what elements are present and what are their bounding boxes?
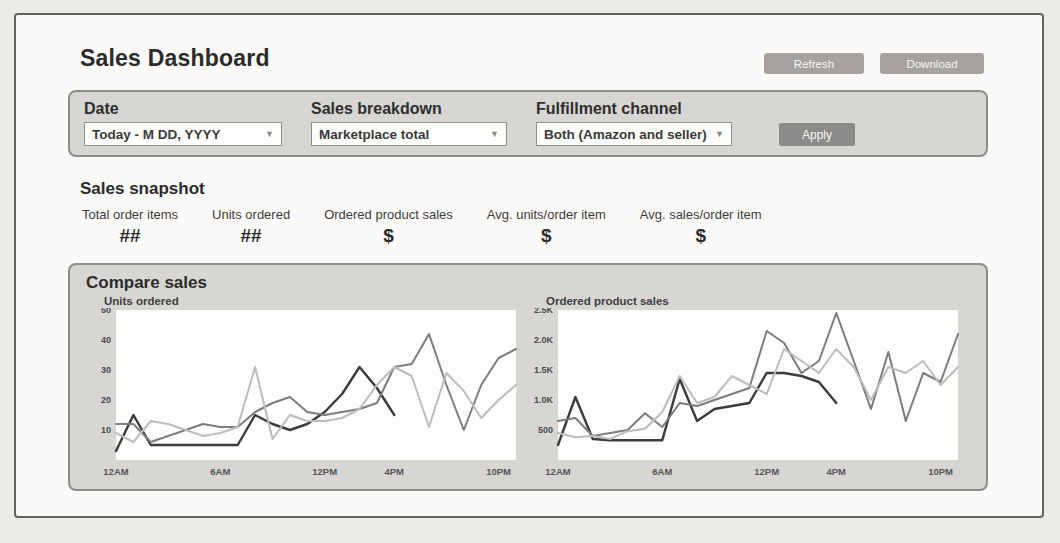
metric-avg-sales-per-order-item: Avg. sales/order item $ xyxy=(640,207,762,247)
metric-value: $ xyxy=(487,225,606,247)
dashboard-card: Sales Dashboard Refresh Download Date To… xyxy=(14,13,1044,518)
sales-snapshot-title: Sales snapshot xyxy=(80,179,1042,199)
fulfillment-channel-filter-group: Fulfillment channel Both (Amazon and sel… xyxy=(536,100,732,146)
date-filter-group: Date Today - M DD, YYYY ▼ xyxy=(84,100,282,146)
svg-text:2.5K: 2.5K xyxy=(534,308,554,315)
download-button[interactable]: Download xyxy=(880,53,984,74)
metric-avg-units-per-order-item: Avg. units/order item $ xyxy=(487,207,606,247)
metric-value: ## xyxy=(82,225,178,247)
svg-text:12PM: 12PM xyxy=(312,466,337,477)
date-filter-label: Date xyxy=(84,100,282,118)
svg-text:20: 20 xyxy=(101,395,111,405)
ordered-product-sales-line-chart: 5001.0K1.5K2.0K2.5K12AM6AM12PM4PM10PM xyxy=(530,308,964,480)
svg-text:6AM: 6AM xyxy=(652,466,672,477)
metric-units-ordered: Units ordered ## xyxy=(212,207,290,247)
fulfillment-channel-select[interactable]: Both (Amazon and seller) ▼ xyxy=(536,122,732,146)
metric-label: Total order items xyxy=(82,207,178,222)
fulfillment-channel-select-value: Both (Amazon and seller) xyxy=(544,127,707,142)
svg-text:4PM: 4PM xyxy=(384,466,404,477)
svg-text:12AM: 12AM xyxy=(103,466,128,477)
svg-text:1.5K: 1.5K xyxy=(534,365,554,375)
ordered-product-sales-chart-block: Ordered product sales 5001.0K1.5K2.0K2.5… xyxy=(530,295,964,480)
metric-label: Ordered product sales xyxy=(324,207,453,222)
svg-text:12PM: 12PM xyxy=(754,466,779,477)
fulfillment-channel-label: Fulfillment channel xyxy=(536,100,732,118)
sales-breakdown-select-value: Marketplace total xyxy=(319,127,429,142)
sales-snapshot-metrics: Total order items ## Units ordered ## Or… xyxy=(82,207,1042,247)
date-select[interactable]: Today - M DD, YYYY ▼ xyxy=(84,122,282,146)
compare-sales-panel: Compare sales Units ordered 102030405012… xyxy=(68,263,988,491)
svg-text:10PM: 10PM xyxy=(486,466,511,477)
chevron-down-icon: ▼ xyxy=(265,129,274,139)
svg-text:50: 50 xyxy=(101,308,111,315)
header: Sales Dashboard Refresh Download xyxy=(80,45,984,74)
svg-text:2.0K: 2.0K xyxy=(534,335,554,345)
metric-total-order-items: Total order items ## xyxy=(82,207,178,247)
units-ordered-chart-block: Units ordered 102030405012AM6AM12PM4PM10… xyxy=(88,295,522,480)
sales-breakdown-filter-group: Sales breakdown Marketplace total ▼ xyxy=(311,100,507,146)
svg-text:1.0K: 1.0K xyxy=(534,395,554,405)
svg-text:12AM: 12AM xyxy=(545,466,570,477)
charts-row: Units ordered 102030405012AM6AM12PM4PM10… xyxy=(88,295,972,480)
metric-label: Avg. units/order item xyxy=(487,207,606,222)
svg-text:4PM: 4PM xyxy=(826,466,846,477)
compare-sales-title: Compare sales xyxy=(86,273,972,293)
svg-text:30: 30 xyxy=(101,365,111,375)
metric-value: $ xyxy=(640,225,762,247)
page-title: Sales Dashboard xyxy=(80,45,270,72)
svg-text:500: 500 xyxy=(538,425,553,435)
svg-text:6AM: 6AM xyxy=(210,466,230,477)
metric-value: ## xyxy=(212,225,290,247)
chevron-down-icon: ▼ xyxy=(715,129,724,139)
metric-label: Avg. sales/order item xyxy=(640,207,762,222)
date-select-value: Today - M DD, YYYY xyxy=(92,127,221,142)
apply-button[interactable]: Apply xyxy=(779,123,855,146)
metric-value: $ xyxy=(324,225,453,247)
metric-label: Units ordered xyxy=(212,207,290,222)
units-ordered-line-chart: 102030405012AM6AM12PM4PM10PM xyxy=(88,308,522,480)
ordered-product-sales-chart-title: Ordered product sales xyxy=(546,295,964,307)
refresh-button[interactable]: Refresh xyxy=(764,53,864,74)
metric-ordered-product-sales: Ordered product sales $ xyxy=(324,207,453,247)
svg-text:10PM: 10PM xyxy=(928,466,953,477)
filter-bar: Date Today - M DD, YYYY ▼ Sales breakdow… xyxy=(68,90,988,157)
header-buttons: Refresh Download xyxy=(764,53,984,74)
svg-text:40: 40 xyxy=(101,335,111,345)
sales-breakdown-label: Sales breakdown xyxy=(311,100,507,118)
sales-breakdown-select[interactable]: Marketplace total ▼ xyxy=(311,122,507,146)
svg-text:10: 10 xyxy=(101,425,111,435)
chevron-down-icon: ▼ xyxy=(490,129,499,139)
units-ordered-chart-title: Units ordered xyxy=(104,295,522,307)
